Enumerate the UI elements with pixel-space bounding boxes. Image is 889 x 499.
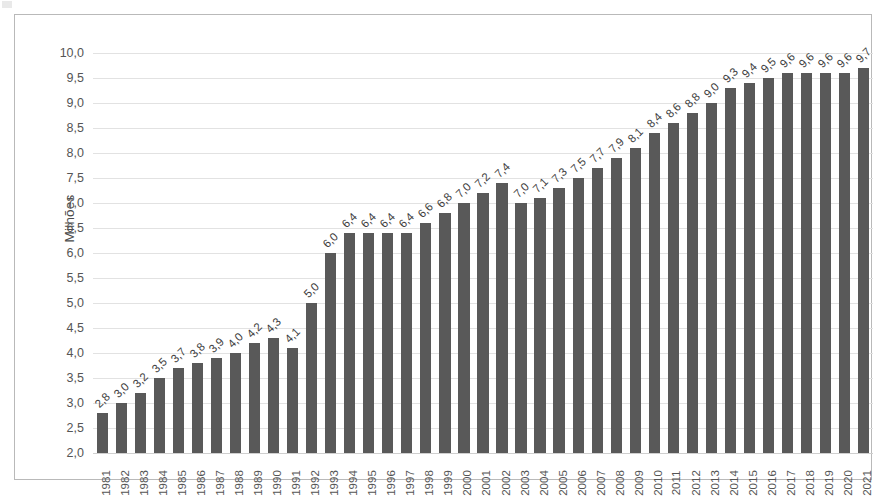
bar[interactable] [268, 338, 279, 453]
bar[interactable] [287, 348, 298, 453]
x-axis-tick-label-text: 1998 [423, 470, 435, 496]
bar-slot[interactable]: 6,4 [378, 53, 397, 453]
bar-slot[interactable]: 9,7 [854, 53, 873, 453]
bar-slot[interactable]: 3,8 [188, 53, 207, 453]
bar[interactable] [649, 133, 660, 453]
bar-slot[interactable]: 8,1 [626, 53, 645, 453]
bar[interactable] [801, 73, 812, 453]
bar-slot[interactable]: 4,0 [226, 53, 245, 453]
x-axis-tick-label: 1982 [112, 457, 131, 489]
x-axis-tick-label-text: 2008 [613, 470, 625, 496]
x-axis-tick-label: 1993 [321, 457, 340, 489]
bar-slot[interactable]: 3,2 [131, 53, 150, 453]
bar[interactable] [325, 253, 336, 453]
bar[interactable] [401, 233, 412, 453]
x-axis-tick-label-text: 1985 [176, 470, 188, 496]
x-axis-tick-label-text: 2020 [842, 470, 854, 496]
bar[interactable] [249, 343, 260, 453]
bar-slot[interactable]: 7,1 [531, 53, 550, 453]
bar[interactable] [97, 413, 108, 453]
bar-slot[interactable]: 6,6 [416, 53, 435, 453]
bar-slot[interactable]: 3,5 [150, 53, 169, 453]
bar-slot[interactable]: 7,7 [588, 53, 607, 453]
bar-slot[interactable]: 5,0 [302, 53, 321, 453]
bar[interactable] [344, 233, 355, 453]
bar-slot[interactable]: 6,4 [359, 53, 378, 453]
bar-value-label: 7,9 [606, 135, 626, 155]
bar-slot[interactable]: 3,9 [207, 53, 226, 453]
bar-slot[interactable]: 6,4 [397, 53, 416, 453]
bar[interactable] [763, 78, 774, 453]
bar[interactable] [725, 88, 736, 453]
bar[interactable] [211, 358, 222, 453]
bar[interactable] [382, 233, 393, 453]
bar[interactable] [116, 403, 127, 453]
bar-slot[interactable]: 8,6 [664, 53, 683, 453]
bar[interactable] [611, 158, 622, 453]
bar[interactable] [439, 213, 450, 453]
x-axis-tick-label-text: 2015 [747, 470, 759, 496]
bar[interactable] [135, 393, 146, 453]
bar-slot[interactable]: 9,6 [797, 53, 816, 453]
bar[interactable] [458, 203, 469, 453]
bar-slot[interactable]: 7,3 [550, 53, 569, 453]
bar-slot[interactable]: 2,8 [93, 53, 112, 453]
bar-slot[interactable]: 8,4 [645, 53, 664, 453]
bar[interactable] [706, 103, 717, 453]
bar-slot[interactable]: 7,0 [454, 53, 473, 453]
plot-area: 2,02,53,03,54,04,55,05,56,06,57,07,58,08… [93, 53, 873, 453]
bar-slot[interactable]: 4,2 [245, 53, 264, 453]
bar[interactable] [858, 68, 869, 453]
y-axis-tick-label: 4,0 [67, 346, 84, 360]
bar[interactable] [230, 353, 241, 453]
bar-slot[interactable]: 9,0 [702, 53, 721, 453]
bar-slot[interactable]: 7,0 [512, 53, 531, 453]
bar[interactable] [192, 363, 203, 453]
bar-slot[interactable]: 9,5 [759, 53, 778, 453]
x-axis-tick-label-text: 1986 [195, 470, 207, 496]
bar[interactable] [820, 73, 831, 453]
bar[interactable] [477, 193, 488, 453]
bar[interactable] [553, 188, 564, 453]
bar[interactable] [173, 368, 184, 453]
bar[interactable] [534, 198, 545, 453]
bar-slot[interactable]: 9,6 [778, 53, 797, 453]
x-axis-tick-label-text: 1995 [366, 470, 378, 496]
bar-slot[interactable]: 7,2 [473, 53, 492, 453]
bar[interactable] [592, 168, 603, 453]
bar[interactable] [496, 183, 507, 453]
bar-slot[interactable]: 3,0 [112, 53, 131, 453]
bar-slot[interactable]: 7,9 [607, 53, 626, 453]
bar-slot[interactable]: 6,8 [435, 53, 454, 453]
bar-slot[interactable]: 9,6 [816, 53, 835, 453]
bar-slot[interactable]: 4,3 [264, 53, 283, 453]
bar-slot[interactable]: 9,4 [740, 53, 759, 453]
bar[interactable] [306, 303, 317, 453]
bar-slot[interactable]: 7,5 [569, 53, 588, 453]
x-axis-tick-label: 1995 [359, 457, 378, 489]
bar-slot[interactable]: 4,1 [283, 53, 302, 453]
bar[interactable] [630, 148, 641, 453]
bar[interactable] [515, 203, 526, 453]
x-axis-tick-label: 2009 [626, 457, 645, 489]
y-axis-tick-label: 2,0 [67, 446, 84, 460]
bar[interactable] [420, 223, 431, 453]
bar[interactable] [668, 123, 679, 453]
bar[interactable] [687, 113, 698, 453]
bar-slot[interactable]: 9,6 [835, 53, 854, 453]
y-axis-tick-label: 10,0 [60, 46, 84, 60]
x-axis-tick-label: 1996 [378, 457, 397, 489]
bar-slot[interactable]: 9,3 [721, 53, 740, 453]
bar[interactable] [363, 233, 374, 453]
bar[interactable] [573, 178, 584, 453]
bar-slot[interactable]: 6,4 [340, 53, 359, 453]
bar-slot[interactable]: 7,4 [493, 53, 512, 453]
bar[interactable] [839, 73, 850, 453]
bar[interactable] [782, 73, 793, 453]
bar[interactable] [744, 83, 755, 453]
x-axis-tick-label-text: 2007 [594, 470, 606, 496]
bar-slot[interactable]: 6,0 [321, 53, 340, 453]
bar-slot[interactable]: 3,7 [169, 53, 188, 453]
bar[interactable] [154, 378, 165, 453]
bar-slot[interactable]: 8,8 [683, 53, 702, 453]
